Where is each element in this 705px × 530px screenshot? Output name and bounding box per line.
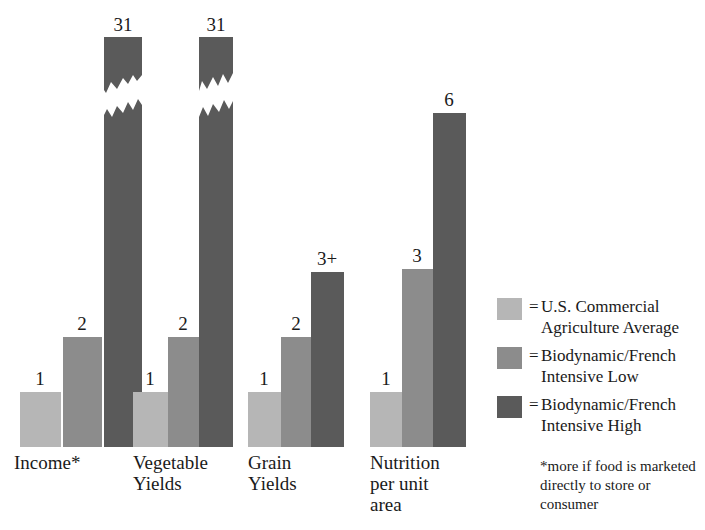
legend-equals-sign: = xyxy=(529,296,539,317)
bar-income-us-commercial[interactable] xyxy=(20,392,61,447)
bar-value-label: 2 xyxy=(52,314,112,333)
bar-grain-bfi-low[interactable] xyxy=(281,337,311,447)
bar-value-label: 3+ xyxy=(297,249,357,268)
category-label-income: Income* xyxy=(14,452,80,473)
legend-swatch-icon xyxy=(497,396,522,418)
legend-label: Biodynamic/French Intensive High xyxy=(541,394,705,436)
bar-vegetable-bfi-low[interactable] xyxy=(168,337,199,447)
bar-fill xyxy=(63,337,102,447)
legend-swatch-icon xyxy=(497,298,522,320)
legend-label: Biodynamic/French Intensive Low xyxy=(541,345,705,387)
bar-fill xyxy=(433,113,466,447)
broken-bar-shape xyxy=(199,37,233,447)
chart-legend: = U.S. Commercial Agriculture Average = … xyxy=(497,296,705,443)
bar-value-label: 31 xyxy=(186,15,246,34)
category-label-grain-yields: Grain Yields xyxy=(248,452,297,494)
bar-chart: 1 2 31 Income* 1 2 xyxy=(0,0,705,530)
bar-vegetable-us-commercial[interactable] xyxy=(133,392,168,447)
chart-footnote: *more if food is marketed directly to st… xyxy=(540,457,705,514)
legend-label: U.S. Commercial Agriculture Average xyxy=(541,296,705,338)
bar-grain-us-commercial[interactable] xyxy=(248,392,281,447)
bar-fill xyxy=(133,392,168,447)
legend-equals-sign: = xyxy=(529,394,539,415)
bar-fill xyxy=(248,392,281,447)
bar-value-label: 6 xyxy=(419,90,479,109)
bar-fill xyxy=(281,337,311,447)
bar-nutrition-bfi-low[interactable] xyxy=(402,269,433,447)
bar-nutrition-us-commercial[interactable] xyxy=(370,392,402,447)
bar-fill xyxy=(311,272,344,447)
legend-item-bfi-high[interactable]: = Biodynamic/French Intensive High xyxy=(497,394,705,436)
bar-vegetable-bfi-high[interactable] xyxy=(199,37,233,447)
bar-fill xyxy=(20,392,61,447)
bar-fill xyxy=(402,269,433,447)
bar-grain-bfi-high[interactable] xyxy=(311,272,344,447)
legend-equals-sign: = xyxy=(529,345,539,366)
bar-nutrition-bfi-high[interactable] xyxy=(433,113,466,447)
bar-fill xyxy=(370,392,402,447)
category-label-nutrition-per-unit-area: Nutrition per unit area xyxy=(370,452,440,515)
legend-item-us-commercial[interactable]: = U.S. Commercial Agriculture Average xyxy=(497,296,705,338)
bar-value-label: 1 xyxy=(10,369,70,388)
legend-item-bfi-low[interactable]: = Biodynamic/French Intensive Low xyxy=(497,345,705,387)
bar-fill xyxy=(168,337,199,447)
category-label-vegetable-yields: Vegetable Yields xyxy=(133,452,208,494)
plot-area: 1 2 31 Income* 1 2 xyxy=(0,0,480,530)
legend-swatch-icon xyxy=(497,347,522,369)
bar-income-bfi-low[interactable] xyxy=(63,337,102,447)
bar-value-label: 31 xyxy=(93,15,153,34)
